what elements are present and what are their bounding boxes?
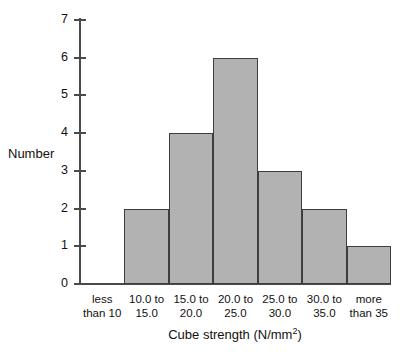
x-axis-title-tail: ) (297, 327, 301, 342)
bar (124, 209, 168, 284)
bar (347, 246, 391, 284)
y-axis-tick (74, 170, 86, 172)
y-axis-tick (74, 57, 86, 59)
y-axis-tick (74, 245, 86, 247)
bar (213, 58, 257, 284)
bar (258, 171, 302, 284)
y-axis-tick (74, 283, 86, 285)
y-axis-tick-label: 1 (44, 239, 68, 252)
y-axis-tick (74, 132, 86, 134)
y-axis-tick (74, 19, 86, 21)
y-axis-tick-label: 6 (44, 51, 68, 64)
y-axis-title: Number (8, 146, 54, 161)
x-axis-title: Cube strength (N/mm2) (79, 327, 391, 342)
y-axis-tick-label: 5 (44, 88, 68, 101)
bar (169, 133, 213, 284)
y-axis-tick-label: 0 (44, 277, 68, 290)
histogram-chart: 01234567 lessthan 1010.0 to15.015.0 to20… (0, 0, 410, 355)
x-axis-tick-label-line: than 35 (341, 306, 397, 320)
x-axis-tick-label: morethan 35 (341, 292, 397, 320)
bar (302, 209, 346, 284)
y-axis-tick-label: 7 (44, 13, 68, 26)
y-axis-tick (74, 94, 86, 96)
y-axis-tick-label: 2 (44, 202, 68, 215)
y-axis-tick (74, 208, 86, 210)
y-axis-tick-label: 3 (44, 164, 68, 177)
x-axis-title-main: Cube strength (N/mm (168, 327, 292, 342)
x-axis-tick-label-line: more (341, 292, 397, 306)
y-axis-tick-label: 4 (44, 126, 68, 139)
